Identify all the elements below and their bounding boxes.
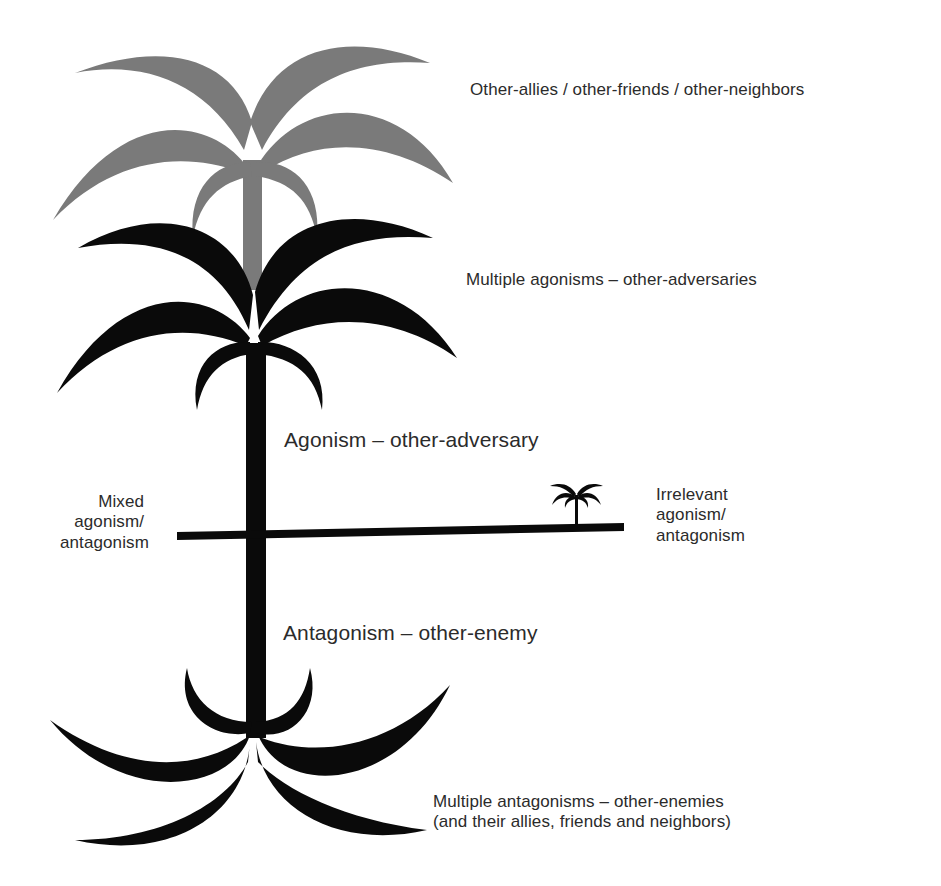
horizon-line bbox=[177, 523, 624, 540]
label-allies: Other-allies / other-friends / other-nei… bbox=[470, 80, 804, 100]
allies-trunk bbox=[243, 160, 262, 290]
allies-crown bbox=[53, 47, 453, 290]
label-irrelevant-line3: antagonism bbox=[656, 526, 745, 546]
label-multiple-antagonisms-line2: (and their allies, friends and neighbors… bbox=[433, 812, 731, 832]
allies-curl-right bbox=[256, 162, 318, 237]
adversaries-curl-right bbox=[258, 342, 323, 410]
label-agonism: Agonism – other-adversary bbox=[284, 427, 539, 452]
palm-tree-diagram: Other-allies / other-friends / other-nei… bbox=[0, 0, 941, 886]
label-mixed-line3: antagonism bbox=[60, 533, 144, 553]
enemies-curl-left bbox=[185, 668, 252, 734]
label-multiple-antagonisms-line1: Multiple antagonisms – other-enemies bbox=[433, 792, 731, 812]
label-mixed-line2: agonism/ bbox=[60, 512, 144, 532]
label-antagonism: Antagonism – other-enemy bbox=[283, 620, 538, 645]
small-palm-icon bbox=[550, 484, 603, 525]
trunk bbox=[246, 343, 266, 738]
adversaries-curl-left bbox=[195, 342, 251, 410]
label-multiple-antagonisms: Multiple antagonisms – other-enemies (an… bbox=[433, 792, 731, 833]
label-mixed-line1: Mixed bbox=[60, 492, 144, 512]
adversaries-leaf-lower-left bbox=[57, 302, 250, 393]
label-irrelevant-line2: agonism/ bbox=[656, 505, 745, 525]
label-multiple-agonisms: Multiple agonisms – other-adversaries bbox=[466, 270, 757, 290]
label-irrelevant-line1: Irrelevant bbox=[656, 485, 745, 505]
label-mixed: Mixed agonism/ antagonism bbox=[60, 492, 144, 553]
label-irrelevant: Irrelevant agonism/ antagonism bbox=[656, 485, 745, 546]
